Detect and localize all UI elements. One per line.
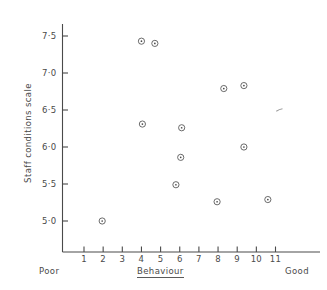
x-axis-title: Behaviour <box>137 266 184 278</box>
x-tick-label: 1 <box>77 254 91 264</box>
x-tick-label: 6 <box>173 254 187 264</box>
data-point-dot <box>154 43 156 45</box>
x-tick-label: 4 <box>134 254 148 264</box>
data-point-dot <box>267 199 269 201</box>
y-tick-label: 7·0 <box>33 68 57 78</box>
data-point <box>152 40 158 46</box>
x-tick-label: 10 <box>249 254 263 264</box>
y-tick-label: 7·5 <box>33 31 57 41</box>
data-point <box>221 85 227 91</box>
data-point-dot <box>243 85 245 87</box>
y-axis-ticks <box>63 36 69 221</box>
data-point-dot <box>101 220 103 222</box>
data-point <box>138 38 144 44</box>
y-tick-label: 5·0 <box>33 216 57 226</box>
data-point <box>241 144 247 150</box>
data-point-dot <box>216 201 218 203</box>
faint-artifact-mark <box>276 109 282 111</box>
data-point-dot <box>181 127 183 129</box>
data-point-dot <box>142 123 144 125</box>
data-point <box>99 218 105 224</box>
x-axis-right-end-label: Good <box>285 266 309 276</box>
x-tick-label: 8 <box>211 254 225 264</box>
y-tick-label: 5·5 <box>33 179 57 189</box>
x-tick-label: 7 <box>192 254 206 264</box>
data-point-dot <box>141 40 143 42</box>
data-point <box>265 196 271 202</box>
data-point <box>173 182 179 188</box>
data-point-dot <box>223 88 225 90</box>
data-point-group <box>99 38 271 224</box>
x-tick-label: 9 <box>230 254 244 264</box>
data-point <box>179 125 185 131</box>
x-tick-label: 3 <box>115 254 129 264</box>
data-point-dot <box>243 146 245 148</box>
x-axis-left-end-label: Poor <box>39 266 59 276</box>
faint-mark-stroke <box>276 109 282 111</box>
data-point <box>139 121 145 127</box>
data-point <box>241 82 247 88</box>
y-tick-label: 6·5 <box>33 105 57 115</box>
x-tick-label: 5 <box>154 254 168 264</box>
data-point <box>178 154 184 160</box>
x-axis-ticks <box>84 247 276 253</box>
y-tick-label: 6·0 <box>33 142 57 152</box>
x-tick-label: 2 <box>96 254 110 264</box>
data-point-dot <box>175 184 177 186</box>
data-point <box>214 199 220 205</box>
x-tick-label: 11 <box>269 254 283 264</box>
y-axis-title: Staff conditions scale <box>23 58 33 208</box>
data-point-dot <box>180 157 182 159</box>
scatter-plot-figure: Staff conditions scale Behaviour Poor Go… <box>0 0 327 290</box>
